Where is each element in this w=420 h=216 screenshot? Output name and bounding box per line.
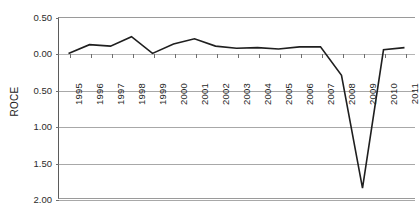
series-roce-polyline (69, 37, 405, 188)
data-series-line (0, 0, 420, 216)
roce-line-chart: ROCE 0.500.000.501.001.502.00 1995199619… (0, 0, 420, 216)
